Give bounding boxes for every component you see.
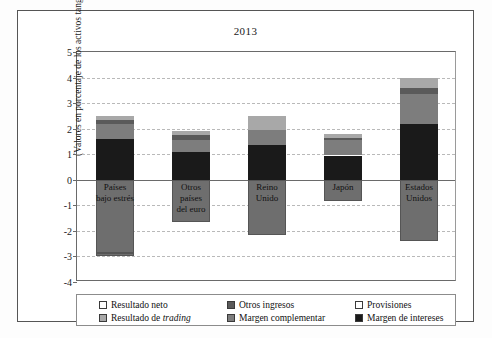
bar-segment[interactable] [96,124,134,139]
bar-group[interactable] [324,52,362,280]
chart-outer-frame: 2013 (Valores en porcentaje de los activ… [17,10,474,322]
bar-segment-negative[interactable] [96,180,134,253]
bar-segment[interactable] [248,116,286,130]
legend-swatch-icon [99,301,107,309]
bar-segment-negative[interactable] [324,180,362,202]
y-tick-mark [73,52,77,53]
bar-group[interactable] [400,52,438,280]
y-tick-label: 1 [67,149,72,160]
bar-segment[interactable] [400,94,438,123]
bar-segment-negative[interactable] [96,253,134,257]
legend-item[interactable]: Margen complementar [227,313,325,323]
bar-segment[interactable] [400,124,438,180]
legend-label: Margen de intereses [367,313,443,323]
legend-label: Resultado neto [111,300,168,310]
y-tick-mark [73,180,77,181]
bar-segment[interactable] [172,152,210,180]
bar-segment[interactable] [248,145,286,180]
legend-label: Provisiones [367,300,411,310]
bar-group[interactable] [172,52,210,280]
y-tick-label: 4 [67,72,72,83]
bar-segment[interactable] [172,140,210,152]
legend-swatch-icon [355,314,363,322]
y-tick-mark [73,256,77,257]
y-tick-mark [73,129,77,130]
bar-group[interactable] [248,52,286,280]
chart-title: 2013 [18,25,473,37]
bar-segment[interactable] [324,138,362,141]
y-tick-label: 0 [67,174,72,185]
y-tick-mark [73,231,77,232]
legend-swatch-icon [227,301,235,309]
legend-item[interactable]: Margen de intereses [355,313,443,323]
bar-segment[interactable] [172,131,210,135]
legend-label: Otros ingresos [239,300,294,310]
bar-segment[interactable] [96,116,134,120]
legend-item[interactable]: Otros ingresos [227,300,294,310]
plot-area: (Valores en porcentaje de los activos ta… [76,51,456,281]
y-tick-label: 3 [67,98,72,109]
y-tick-label: -1 [64,200,72,211]
y-tick-label: -4 [64,277,72,288]
legend-item[interactable]: Resultado de trading [99,313,191,323]
y-tick-label: 2 [67,123,72,134]
chart-screenshot: 2013 (Valores en porcentaje de los activ… [0,0,492,338]
y-tick-mark [73,205,77,206]
bar-segment[interactable] [96,120,134,124]
legend-label: Margen complementar [239,313,325,323]
y-tick-label: 5 [67,47,72,58]
bar-segment[interactable] [324,134,362,138]
bar-segment[interactable] [400,88,438,94]
y-tick-label: -2 [64,225,72,236]
y-tick-mark [73,154,77,155]
bar-segment[interactable] [324,140,362,155]
y-tick-mark [73,103,77,104]
bar-segment[interactable] [172,135,210,140]
bar-segment[interactable] [324,156,362,180]
y-tick-mark [73,282,77,283]
bar-group[interactable] [96,52,134,280]
legend-item[interactable]: Resultado neto [99,300,168,310]
legend-swatch-icon [227,314,235,322]
bar-segment[interactable] [248,130,286,145]
legend-label: Resultado de trading [111,313,191,323]
bar-segment[interactable] [400,78,438,88]
bar-segment[interactable] [96,139,134,180]
y-tick-label: -3 [64,251,72,262]
bar-segment-negative[interactable] [400,180,438,241]
y-tick-mark [73,78,77,79]
bar-segment-negative[interactable] [248,180,286,235]
legend-swatch-icon [99,314,107,322]
legend-label-emphasis: trading [163,313,191,323]
bar-segment-negative[interactable] [172,180,210,222]
chart-legend: Resultado netoOtros ingresosProvisionesR… [76,294,456,326]
legend-item[interactable]: Provisiones [355,300,411,310]
legend-swatch-icon [355,301,363,309]
